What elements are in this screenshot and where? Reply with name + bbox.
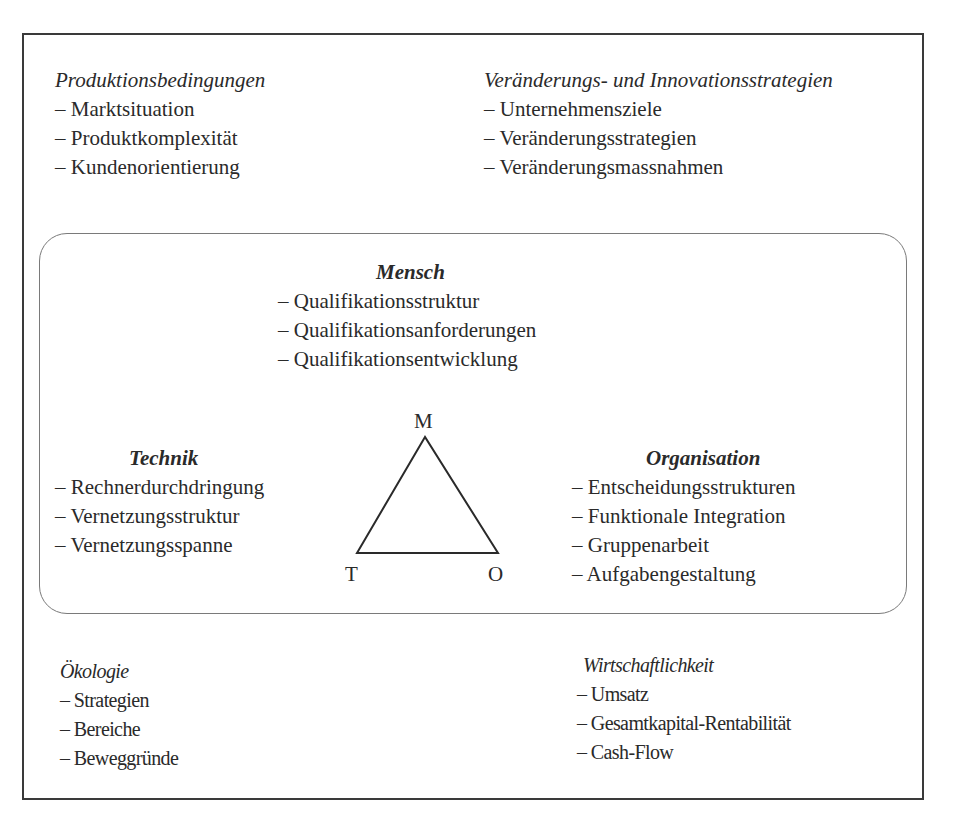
triangle-label-m: M (414, 409, 433, 433)
list-item: Vernetzungsstruktur (55, 502, 264, 531)
list-item: Marktsituation (55, 95, 265, 124)
ecology-title: Ökologie (60, 657, 178, 686)
organisation-title: Organisation (572, 444, 795, 473)
technik-block: Technik Rechnerdurchdringung Vernetzungs… (55, 444, 264, 560)
list-item: Bereiche (60, 715, 178, 744)
list-item: Entscheidungsstrukturen (572, 473, 795, 502)
list-item: Gruppenarbeit (572, 531, 795, 560)
list-item: Gesamtkapital-Rentabilität (577, 709, 791, 738)
list-item: Umsatz (577, 680, 791, 709)
list-item: Veränderungsmassnahmen (484, 153, 833, 182)
change-strategies-block: Veränderungs- und Innovationsstrategien … (484, 66, 833, 182)
change-strategies-title: Veränderungs- und Innovationsstrategien (484, 66, 833, 95)
organisation-block: Organisation Entscheidungsstrukturen Fun… (572, 444, 795, 589)
list-item: Rechnerdurchdringung (55, 473, 264, 502)
list-item: Vernetzungsspanne (55, 531, 264, 560)
triangle-label-o: O (488, 562, 503, 586)
list-item: Aufgabengestaltung (572, 560, 795, 589)
list-item: Qualifikationsanforderungen (278, 316, 536, 345)
list-item: Beweggründe (60, 744, 178, 773)
technik-title: Technik (55, 444, 264, 473)
list-item: Veränderungsstrategien (484, 124, 833, 153)
ecology-block: Ökologie Strategien Bereiche Beweggründe (60, 657, 178, 773)
list-item: Unternehmensziele (484, 95, 833, 124)
mensch-block: Mensch Qualifikationsstruktur Qualifikat… (278, 258, 536, 374)
production-conditions-title: Produktionsbedingungen (55, 66, 265, 95)
production-conditions-block: Produktionsbedingungen Marktsituation Pr… (55, 66, 265, 182)
list-item: Strategien (60, 686, 178, 715)
profitability-block: Wirtschaftlichkeit Umsatz Gesamtkapital-… (577, 651, 791, 767)
triangle-label-t: T (345, 562, 358, 586)
list-item: Qualifikationsstruktur (278, 287, 536, 316)
list-item: Cash-Flow (577, 738, 791, 767)
list-item: Produktkomplexität (55, 124, 265, 153)
list-item: Kundenorientierung (55, 153, 265, 182)
mensch-title: Mensch (278, 258, 536, 287)
list-item: Qualifikationsentwicklung (278, 345, 536, 374)
list-item: Funktionale Integration (572, 502, 795, 531)
profitability-title: Wirtschaftlichkeit (577, 651, 791, 680)
